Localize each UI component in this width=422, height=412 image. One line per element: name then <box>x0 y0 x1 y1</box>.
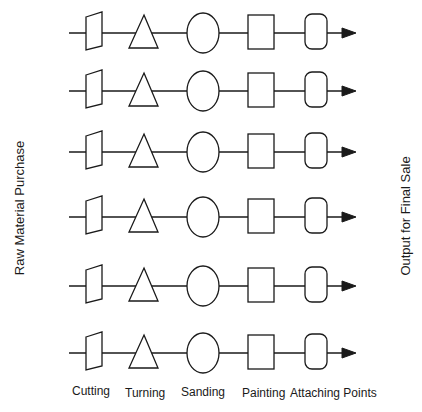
sanding-circle-icon <box>187 71 219 111</box>
arrow-head-icon <box>342 28 356 38</box>
sanding-circle-icon <box>187 333 219 373</box>
arrow-head-icon <box>342 348 356 358</box>
cutting-trapezoid-icon <box>86 70 102 108</box>
turning-triangle-icon <box>129 73 158 106</box>
painting-square-icon <box>248 134 274 168</box>
process-row <box>69 131 356 172</box>
sanding-circle-icon <box>187 132 219 172</box>
cutting-trapezoid-icon <box>86 196 102 234</box>
sanding-circle-icon <box>187 13 219 53</box>
attaching-points-rounded-rect-icon <box>305 72 327 107</box>
sanding-circle-icon <box>187 197 219 237</box>
cutting-trapezoid-icon <box>86 265 102 303</box>
turning-triangle-icon <box>129 15 158 48</box>
attaching-points-rounded-rect-icon <box>305 267 327 302</box>
arrow-head-icon <box>342 147 356 157</box>
painting-square-icon <box>248 335 274 369</box>
turning-triangle-icon <box>129 335 158 368</box>
turning-triangle-icon <box>129 199 158 232</box>
cutting-trapezoid-icon <box>86 12 102 50</box>
process-row <box>69 265 356 306</box>
arrow-head-icon <box>342 281 356 291</box>
output-for-final-sale-label: Output for Final Sale <box>398 156 413 275</box>
stage-label-painting: Painting <box>242 386 285 400</box>
stage-label-attaching-points: Attaching Points <box>290 386 377 400</box>
attaching-points-rounded-rect-icon <box>305 14 327 49</box>
sanding-circle-icon <box>187 266 219 306</box>
painting-square-icon <box>248 15 274 49</box>
process-row <box>69 12 356 53</box>
process-row <box>69 196 356 237</box>
turning-triangle-icon <box>129 268 158 301</box>
arrow-head-icon <box>342 86 356 96</box>
attaching-points-rounded-rect-icon <box>305 133 327 168</box>
painting-square-icon <box>248 268 274 302</box>
cutting-trapezoid-icon <box>86 131 102 169</box>
attaching-points-rounded-rect-icon <box>305 198 327 233</box>
stage-label-cutting: Cutting <box>72 384 110 398</box>
stage-label-sanding: Sanding <box>181 385 225 399</box>
stage-label-turning: Turning <box>125 386 165 400</box>
raw-material-purchase-label: Raw Material Purchase <box>12 141 27 275</box>
cutting-trapezoid-icon <box>86 332 102 370</box>
production-line-diagram <box>0 0 422 412</box>
arrow-head-icon <box>342 212 356 222</box>
turning-triangle-icon <box>129 134 158 167</box>
process-row <box>69 332 356 373</box>
painting-square-icon <box>248 199 274 233</box>
painting-square-icon <box>248 73 274 107</box>
process-row <box>69 70 356 111</box>
attaching-points-rounded-rect-icon <box>305 334 327 369</box>
